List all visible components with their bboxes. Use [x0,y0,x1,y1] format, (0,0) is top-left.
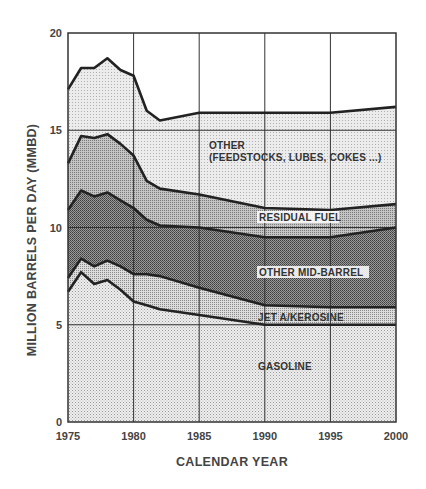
band-label-gasoline: GASOLINE [258,361,312,372]
x-tick-1995: 1995 [318,430,342,442]
x-tick-1985: 1985 [187,430,211,442]
y-axis-ticks: 05101520 [50,27,62,428]
band-label-other-line2: (FEEDSTOCKS, LUBES, COKES ...) [209,152,382,163]
label-gasoline: GASOLINE [258,361,312,372]
x-tick-2000: 2000 [384,430,408,442]
band-label-jet-a-kerosine: JET A/KEROSINE [258,312,344,323]
y-axis-title: MILLION BARRELS PER DAY (MMBD) [25,124,39,357]
x-axis-title: CALENDAR YEAR [176,455,288,469]
x-tick-1990: 1990 [253,430,277,442]
x-axis-ticks: 197519801985199019952000 [56,430,408,442]
band-label-other-mid-barrel: OTHER MID-BARREL [259,267,363,278]
band-label-residual-fuel: RESIDUAL FUEL [259,212,341,223]
label-jet-a-kerosine: JET A/KEROSINE [258,312,344,323]
label-other-mid-barrel: OTHER MID-BARREL [257,266,369,278]
x-tick-1980: 1980 [121,430,145,442]
y-tick-5: 5 [56,319,62,331]
band-label-other-line1: OTHER [209,140,246,151]
stacked-area-chart: 05101520 197519801985199019952000 MILLIO… [0,0,426,489]
x-tick-1975: 1975 [56,430,80,442]
y-tick-0: 0 [56,416,62,428]
y-tick-15: 15 [50,124,62,136]
label-residual-fuel: RESIDUAL FUEL [257,211,341,223]
y-tick-20: 20 [50,27,62,39]
y-tick-10: 10 [50,222,62,234]
